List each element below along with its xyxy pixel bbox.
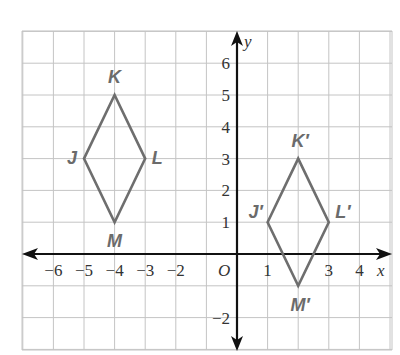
- y-axis-label: y: [242, 32, 252, 51]
- vertex-label: L: [152, 148, 163, 168]
- vertex-label: M: [107, 231, 123, 251]
- vertex-label: M′: [291, 295, 311, 315]
- vertex-label: J′: [248, 202, 263, 222]
- x-tick-label: 4: [355, 261, 364, 280]
- x-tick-label: −2: [167, 261, 185, 280]
- x-axis-label: x: [376, 261, 385, 280]
- vertex-label: L′: [335, 202, 351, 222]
- x-tick-label: 3: [325, 261, 334, 280]
- vertex-label: K′: [292, 131, 310, 151]
- x-tick-label: −6: [44, 261, 62, 280]
- origin-label: O: [218, 261, 230, 280]
- x-tick-label: −4: [106, 261, 125, 280]
- vertex-label: J: [67, 148, 78, 168]
- y-tick-label: 4: [222, 118, 231, 137]
- y-tick-label: 6: [222, 54, 231, 73]
- y-tick-label: 5: [222, 86, 231, 105]
- y-tick-label: 2: [222, 181, 231, 200]
- grid: [22, 31, 392, 350]
- vertex-label: K: [108, 67, 123, 87]
- coordinate-plane: −6−5−4−3−2134654321−2 x y O JKLMJ′K′L′M′: [0, 0, 400, 355]
- x-tick-label: −3: [136, 261, 154, 280]
- x-tick-label: 1: [263, 261, 272, 280]
- y-tick-label: 3: [222, 150, 231, 169]
- x-tick-label: −5: [75, 261, 93, 280]
- y-tick-label: 1: [222, 213, 231, 232]
- axes: [22, 31, 392, 351]
- y-tick-label: −2: [212, 309, 230, 328]
